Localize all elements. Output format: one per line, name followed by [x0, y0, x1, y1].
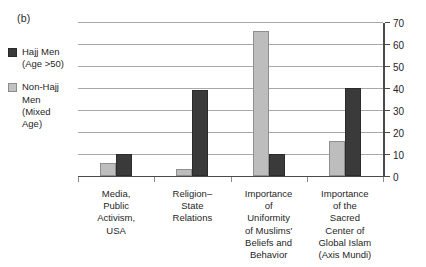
x-axis-separator — [231, 177, 232, 182]
bar — [329, 141, 345, 176]
legend-label-non-hajj-men: Non-Hajj Men (Mixed Age) — [22, 81, 59, 130]
bar-group — [307, 88, 383, 176]
x-category-label: Media, Public Activism, USA — [78, 188, 154, 237]
legend-swatch-non-hajj-men — [8, 83, 17, 92]
legend-item-hajj-men: Hajj Men (Age >50) — [8, 46, 80, 70]
x-axis-separator — [78, 177, 79, 182]
chart-legend: Hajj Men (Age >50) Non-Hajj Men (Mixed A… — [8, 46, 80, 141]
panel-label: (b) — [17, 12, 30, 24]
plot-area — [78, 23, 383, 177]
bar — [253, 31, 269, 176]
y-tick-40 — [385, 88, 390, 89]
y-tick-label-20: 20 — [393, 128, 404, 139]
y-tick-20 — [385, 132, 390, 133]
bar — [176, 169, 192, 176]
y-tick-label-50: 50 — [393, 62, 404, 73]
legend-label-hajj-men: Hajj Men (Age >50) — [22, 46, 64, 70]
y-tick-30 — [385, 110, 390, 111]
y-tick-label-30: 30 — [393, 106, 404, 117]
bar — [269, 154, 285, 176]
bar-group — [154, 90, 230, 176]
x-axis-separator — [154, 177, 155, 182]
x-axis-separator — [307, 177, 308, 182]
y-axis — [383, 23, 385, 177]
bar — [345, 88, 361, 176]
bar-group — [78, 154, 154, 176]
y-tick-label-0: 0 — [393, 172, 399, 183]
y-tick-70 — [385, 22, 390, 23]
bar — [192, 90, 208, 176]
legend-item-non-hajj-men: Non-Hajj Men (Mixed Age) — [8, 81, 80, 130]
y-tick-60 — [385, 44, 390, 45]
y-tick-0 — [385, 176, 390, 177]
x-category-label: Religion– State Relations — [154, 188, 230, 225]
y-tick-50 — [385, 66, 390, 67]
legend-swatch-hajj-men — [8, 48, 17, 57]
bar — [100, 163, 116, 176]
y-tick-10 — [385, 154, 390, 155]
x-category-label: Importance of Uniformity of Muslims' Bel… — [231, 188, 307, 261]
y-tick-label-10: 10 — [393, 150, 404, 161]
x-axis-separator — [383, 177, 384, 182]
y-tick-label-40: 40 — [393, 84, 404, 95]
y-tick-label-60: 60 — [393, 40, 404, 51]
bar — [116, 154, 132, 176]
x-category-label: Importance of the Sacred Center of Globa… — [307, 188, 383, 261]
y-tick-label-70: 70 — [393, 18, 404, 29]
bar-group — [231, 31, 307, 176]
gridline-70 — [78, 22, 383, 23]
